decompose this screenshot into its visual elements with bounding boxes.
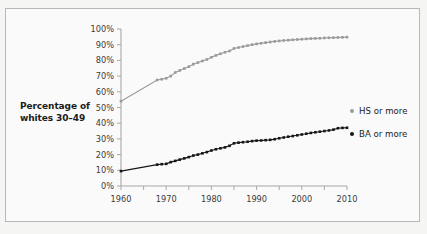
legend-item-ba[interactable]: BA or more [350,129,427,139]
y-axis-ticks: 0%10%20%30%40%50%60%70%80%90%100% [91,24,121,191]
legend-marker-hs-icon [350,109,354,113]
x-axis-ticks: 196019701980199020002010 [111,186,358,204]
legend-item-hs[interactable]: HS or more [350,106,427,116]
x-tick-label: 1960 [111,194,132,204]
y-tick-label: 20% [96,150,114,160]
y-tick-label: 10% [96,165,114,175]
y-tick-label: 100% [91,24,115,34]
x-tick-label: 1980 [201,194,222,204]
y-tick-label: 70% [96,71,114,81]
y-tick-label: 60% [96,87,114,97]
figure-container: Percentage of whites 30–49 0%10%20%30%40… [0,0,427,234]
chart-frame: Percentage of whites 30–49 0%10%20%30%40… [5,8,420,222]
y-tick-label: 40% [96,118,114,128]
y-tick-label: 30% [96,134,114,144]
y-tick-label: 0% [101,181,114,191]
chart-legend: HS or more BA or more [350,106,427,152]
y-tick-label: 90% [96,40,114,50]
x-tick-label: 2000 [291,194,312,204]
legend-label-hs: HS or more [359,106,407,116]
data-series-hs [120,36,349,103]
data-series-group [120,36,349,173]
legend-label-ba: BA or more [359,129,407,139]
x-tick-label: 2010 [337,194,358,204]
x-tick-label: 1990 [246,194,267,204]
y-tick-label: 80% [96,55,114,65]
data-series-ba [120,126,349,172]
legend-marker-ba-icon [350,132,354,136]
x-tick-label: 1970 [156,194,177,204]
y-tick-label: 50% [96,103,114,113]
